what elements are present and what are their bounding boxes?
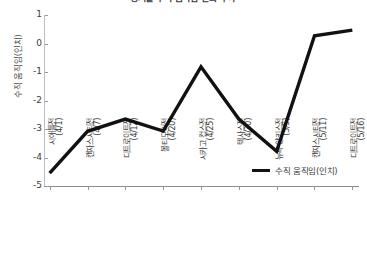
y-axis-tick-label: -1	[16, 67, 42, 76]
y-axis-tick-label: 0	[16, 39, 42, 48]
chart-figure: 경기별 수직 움직임 변화 추이 수직 움직임(인치) 10-1-2-3-4-5…	[0, 0, 367, 271]
legend-label: 수직 움직임(인치)	[275, 164, 337, 176]
x-axis-tick-date-label: (4/25)	[206, 118, 219, 192]
y-axis-tick	[45, 15, 48, 16]
y-axis-tick-label: -5	[16, 181, 42, 190]
y-axis-tick-label: 1	[16, 10, 42, 19]
y-axis-tick-label: -4	[16, 153, 42, 162]
x-axis-tick-date-label: (5/16)	[357, 118, 367, 192]
y-axis-tick-label: -2	[16, 96, 42, 105]
y-axis-tick-label: -3	[16, 124, 42, 133]
x-axis-tick-date-label: (5/5)	[282, 118, 295, 192]
y-axis-tick	[45, 72, 48, 73]
y-axis-tick	[45, 44, 48, 45]
x-axis-tick-date-label: (4/1)	[55, 118, 68, 192]
x-axis-tick-date-label: (4/20)	[168, 118, 181, 192]
y-axis-title: 수직 움직임(인치)	[11, 11, 23, 121]
x-axis-tick-date-label: (4/7)	[93, 118, 106, 192]
chart-legend: 수직 움직임(인치)	[252, 164, 337, 176]
x-axis-tick-date-label: (4/12)	[130, 118, 143, 192]
y-axis-tick	[45, 101, 48, 102]
chart-title: 경기별 수직 움직임 변화 추이	[55, 0, 310, 4]
legend-line-swatch	[252, 169, 270, 172]
x-axis-tick-date-label: (4/30)	[244, 118, 257, 192]
x-axis-tick-date-label: (5/11)	[319, 118, 332, 192]
